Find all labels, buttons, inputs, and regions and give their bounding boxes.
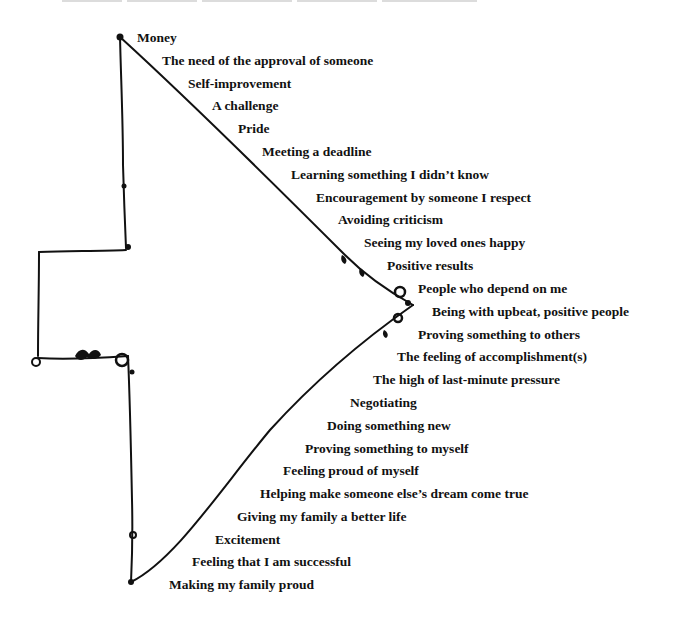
arrow-label: Being with upbeat, positive people [432, 304, 629, 320]
arrow-label: Feeling proud of myself [283, 463, 419, 479]
arrow-label: Money [137, 30, 177, 46]
arrow-label: Helping make someone else’s dream come t… [260, 486, 528, 502]
arrow-label: Negotiating [350, 395, 417, 411]
arrow-label: Excitement [215, 532, 280, 548]
bottom-point-dot [128, 579, 134, 585]
arrow-label: A challenge [212, 98, 278, 114]
arrow-label: Learning something I didn’t know [291, 167, 489, 183]
arrow-label: Encouragement by someone I respect [316, 190, 531, 206]
arrow-label: Self-improvement [188, 76, 291, 92]
arrow-label: The high of last-minute pressure [373, 372, 560, 388]
arrow-label: Giving my family a better life [237, 509, 407, 525]
arrow-label: Proving something to myself [305, 441, 469, 457]
arrow-label: Pride [238, 121, 270, 137]
top-point-dot [117, 34, 124, 41]
arrow-label: Meeting a deadline [262, 144, 372, 160]
arrow-label: Seeing my loved ones happy [364, 235, 525, 251]
arrow-label: Feeling that I am successful [192, 554, 351, 570]
arrow-label: Making my family proud [169, 577, 314, 593]
arrow-label: Positive results [387, 258, 473, 274]
arrow-label: The feeling of accomplishment(s) [397, 349, 587, 365]
arrow-label: Proving something to others [418, 327, 580, 343]
arrow-label: People who depend on me [418, 281, 567, 297]
arrow-label: Doing something new [327, 418, 451, 434]
arrow-label: The need of the approval of someone [162, 53, 373, 69]
arrow-label: Avoiding criticism [338, 212, 443, 228]
